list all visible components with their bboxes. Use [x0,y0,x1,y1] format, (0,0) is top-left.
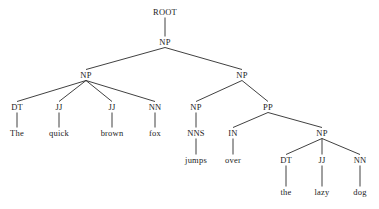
tree-node-w_brown: brown [101,129,124,138]
tree-edge [322,139,360,155]
tree-node-nn1: NN [149,103,162,112]
tree-node-w_fox: fox [149,129,161,138]
tree-node-np4: NP [316,129,327,138]
tree-node-w_the1: The [10,129,24,138]
tree-node-pp1: PP [263,103,273,112]
tree-node-jj1: JJ [55,103,62,112]
tree-node-w_over: over [225,156,241,165]
tree-node-w_jumps: jumps [185,156,207,165]
tree-edge [286,139,322,155]
tree-node-w_quick: quick [49,129,69,138]
tree-edge [196,81,242,102]
tree-node-in1: IN [228,129,237,138]
tree-node-nns1: NNS [187,129,205,138]
tree-node-jj2: JJ [108,103,115,112]
tree-node-np3: NP [190,103,201,112]
tree-node-np0: NP [159,38,170,47]
tree-edge [86,81,155,102]
tree-node-np1: NP [80,71,91,80]
tree-edge [233,113,268,128]
tree-node-nn2: NN [354,156,367,165]
tree-node-dt1: DT [11,103,23,112]
tree-node-np2: NP [236,71,247,80]
tree-edge [242,81,268,102]
tree-node-jj3: JJ [318,156,325,165]
tree-edge [86,48,165,70]
tree-edge [17,81,86,102]
tree-node-w_the2: the [281,188,292,197]
tree-node-w_lazy: lazy [315,188,330,197]
tree-edge [59,81,86,102]
tree-edge [268,113,322,128]
parse-tree-figure: ROOTNPNPNPDTJJJJNNNPPPThequickbrownfoxNN… [0,0,379,209]
tree-node-root: ROOT [153,8,177,17]
tree-edge [165,48,242,70]
tree-edge [86,81,112,102]
tree-node-dt2: DT [280,156,292,165]
tree-node-w_dog: dog [353,188,366,197]
